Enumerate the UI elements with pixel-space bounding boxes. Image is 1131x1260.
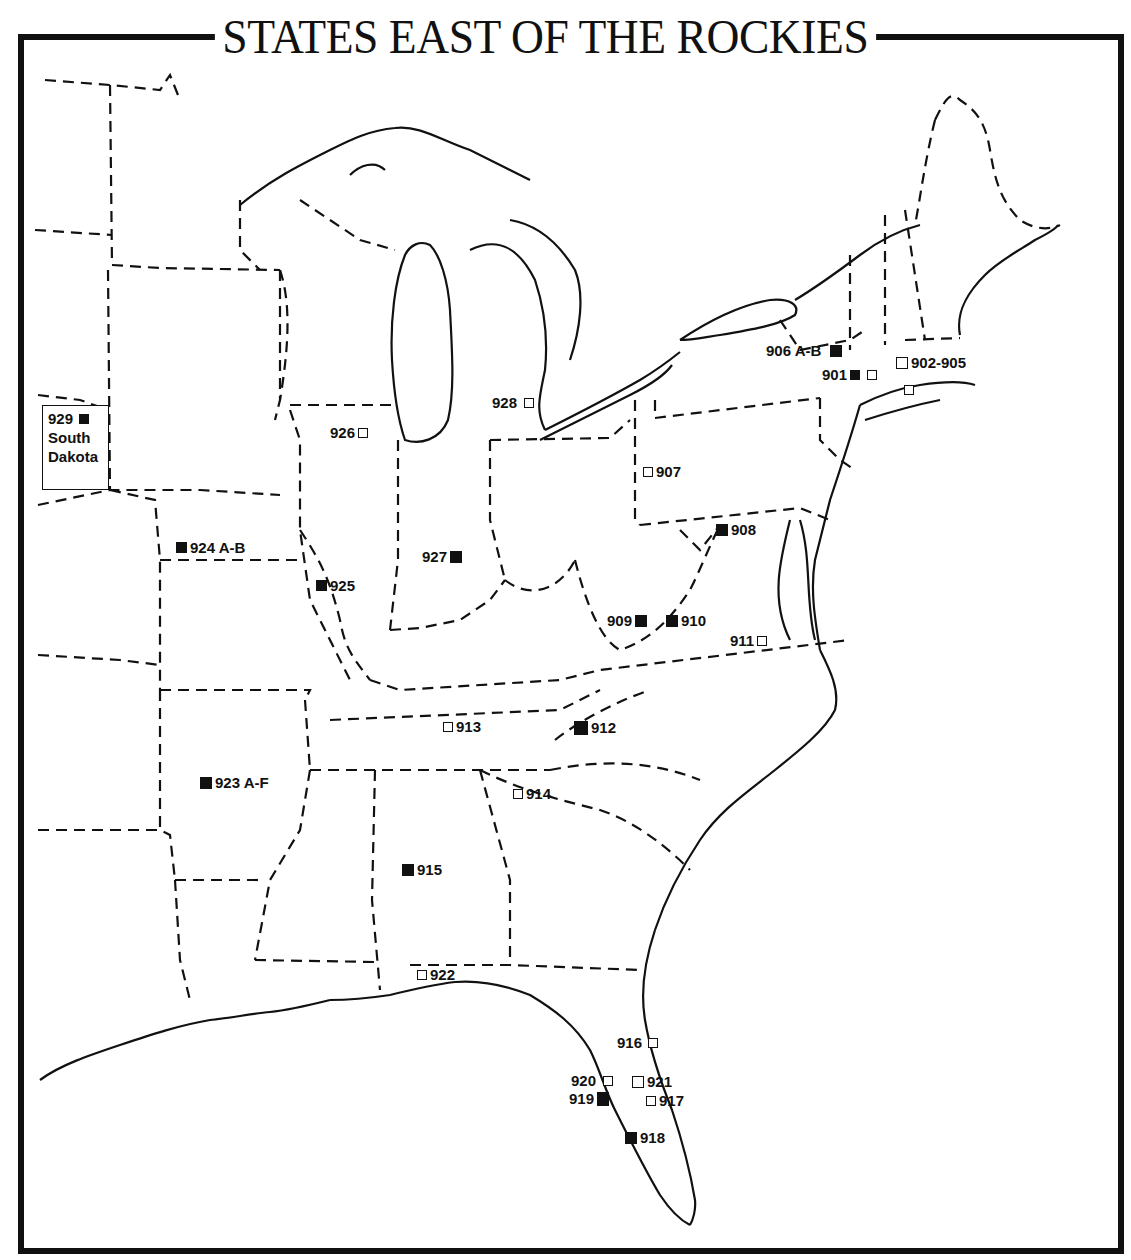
map-marker-916[interactable]: 916 (617, 1034, 658, 1051)
inset-number: 929 (48, 409, 73, 428)
inset-label-line1: South (48, 428, 108, 447)
marker-label: 919 (569, 1090, 594, 1107)
filled-square-icon (716, 524, 728, 536)
marker-label: 902-905 (911, 354, 966, 371)
map-marker-913[interactable]: 913 (443, 718, 481, 735)
filled-square-icon (666, 615, 678, 627)
marker-label: 901 (822, 366, 847, 383)
title-container: STATES EAST OF THE ROCKIES (0, 0, 1131, 49)
hollow-square-icon (643, 467, 653, 477)
marker-label: 914 (526, 785, 551, 802)
marker-label: 908 (731, 521, 756, 538)
hollow-square-icon (646, 1096, 656, 1106)
map-marker-908[interactable]: 908 (716, 521, 756, 538)
map-marker-927[interactable]: 927 (422, 548, 462, 565)
map-marker-911[interactable]: 911 (730, 632, 767, 649)
hollow-square-icon (632, 1076, 644, 1088)
filled-square-icon (316, 580, 327, 591)
map-title: STATES EAST OF THE ROCKIES (215, 12, 876, 61)
filled-square-icon (200, 777, 212, 789)
hollow-square-icon (524, 398, 534, 408)
filled-square-icon (830, 345, 842, 357)
filled-square-icon (402, 864, 414, 876)
filled-square-icon (176, 542, 187, 553)
map-marker-925[interactable]: 925 (316, 577, 355, 594)
map-marker-906[interactable]: 906 A-B (766, 342, 842, 359)
map-marker-919[interactable]: 919 (569, 1090, 609, 1107)
map-marker-922[interactable]: 922 (417, 966, 455, 983)
filled-square-icon (850, 370, 860, 380)
south-dakota-inset: 929 South Dakota (42, 405, 109, 490)
hollow-square-icon (417, 970, 427, 980)
marker-label: 911 (730, 632, 754, 649)
map-marker-915[interactable]: 915 (402, 861, 442, 878)
marker-label: 912 (591, 719, 616, 736)
filled-square-icon (597, 1092, 609, 1106)
marker-label: 906 A-B (766, 342, 821, 359)
marker-label: 910 (681, 612, 706, 629)
marker-label: 928 (492, 394, 517, 411)
marker-label: 909 (607, 612, 632, 629)
marker-label: 913 (456, 718, 481, 735)
marker-label: 927 (422, 548, 447, 565)
filled-square-icon (79, 414, 89, 424)
hollow-square-icon (648, 1038, 658, 1048)
map-marker-914[interactable]: 914 (513, 785, 551, 802)
map-marker-907[interactable]: 907 (643, 463, 681, 480)
marker-label: 918 (640, 1129, 665, 1146)
filled-square-icon (635, 615, 647, 627)
map-marker-926[interactable]: 926 (330, 424, 368, 441)
map-marker-924[interactable]: 924 A-B (176, 539, 245, 556)
filled-square-icon (625, 1132, 637, 1144)
hollow-square-icon (513, 789, 523, 799)
hollow-square-icon (904, 385, 914, 395)
map-marker-901[interactable]: 901 (822, 366, 877, 383)
inset-label-line2: Dakota (48, 447, 108, 466)
marker-label: 926 (330, 424, 355, 441)
map-marker-912[interactable]: 912 (574, 719, 616, 736)
marker-label: 907 (656, 463, 681, 480)
map-marker-909[interactable]: 909 (607, 612, 647, 629)
map-marker-920[interactable]: 920 (571, 1072, 613, 1089)
marker-label: 925 (330, 577, 355, 594)
marker-label: 916 (617, 1034, 642, 1051)
marker-label: 915 (417, 861, 442, 878)
hollow-square-icon (603, 1076, 613, 1086)
map-marker-921[interactable]: 921 (632, 1073, 672, 1090)
marker-label: 924 A-B (190, 539, 245, 556)
hollow-square-icon (896, 357, 908, 369)
marker-label: 923 A-F (215, 774, 269, 791)
map-marker-917[interactable]: 917 (646, 1092, 684, 1109)
map-outline (0, 0, 1131, 1260)
state-borders (35, 75, 1060, 1000)
map-marker-923[interactable]: 923 A-F (200, 774, 269, 791)
filled-square-icon (574, 721, 588, 735)
hollow-square-icon (443, 722, 453, 732)
marker-label: 922 (430, 966, 455, 983)
map-marker-910[interactable]: 910 (666, 612, 706, 629)
marker-label: 917 (659, 1092, 684, 1109)
filled-square-icon (450, 551, 462, 563)
coastlines (40, 128, 1058, 1225)
marker-label: 920 (571, 1072, 596, 1089)
map-marker-928[interactable]: 928 (492, 394, 534, 411)
map-marker-918[interactable]: 918 (625, 1129, 665, 1146)
map-marker-902-905[interactable]: 902-905 (896, 354, 966, 371)
marker-label: 921 (647, 1073, 672, 1090)
hollow-square-icon (358, 428, 368, 438)
hollow-square-icon (867, 370, 877, 380)
hollow-square-icon (757, 636, 767, 646)
